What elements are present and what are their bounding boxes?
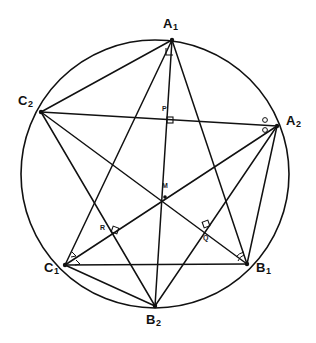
segment-a2-b1 [247, 126, 277, 264]
segment-a1-b2 [155, 40, 172, 306]
vertex-label-a1-letter: A [163, 16, 172, 31]
segment-a1-b1 [172, 40, 247, 264]
point-label-m: M [162, 182, 168, 189]
vertex-label-b2-letter: B [146, 312, 155, 327]
segment-a2-b2 [155, 126, 277, 306]
geometry-figure: A1 A2 B1 B2 C1 C2 P M Q R [0, 0, 316, 343]
vertex-label-c2-sub: 2 [28, 99, 33, 109]
angle-arc-a2-lower [263, 128, 268, 133]
angle-arc-b1-outer [236, 252, 244, 257]
vertex-dot-b2 [153, 304, 157, 308]
vertex-label-b2-sub: 2 [156, 318, 161, 328]
geometry-canvas [0, 0, 316, 343]
vertex-label-b2: B2 [146, 313, 160, 326]
vertex-dot-a2 [275, 124, 279, 128]
vertex-label-a2: A2 [286, 114, 300, 127]
vertex-label-c1-letter: C [44, 260, 53, 275]
vertex-dot-c2 [39, 110, 43, 114]
point-label-r: R [100, 224, 105, 231]
angle-arc-c1-upper [71, 252, 76, 257]
segment-b1-c1 [65, 264, 247, 265]
circumscribed-circle [21, 40, 289, 308]
vertex-label-b1-letter: B [256, 260, 265, 275]
point-label-q: Q [203, 234, 208, 241]
vertex-label-a1-sub: 1 [173, 22, 178, 32]
segment-a2-c1 [65, 126, 277, 265]
vertex-label-c2: C2 [18, 94, 32, 107]
segment-b1-c2 [41, 112, 247, 264]
segment-b2-c2 [41, 112, 155, 306]
segment-a1-c1 [65, 40, 172, 265]
vertex-label-c2-letter: C [18, 93, 27, 108]
vertex-label-b1: B1 [256, 261, 270, 274]
vertex-label-a2-letter: A [286, 113, 295, 128]
right-angle-mark-r [111, 226, 119, 234]
right-angle-mark-group [111, 48, 210, 234]
vertex-label-b1-sub: 1 [266, 266, 271, 276]
vertex-dot-a1 [170, 38, 174, 42]
point-label-p: P [162, 105, 167, 112]
right-angle-mark-q [202, 220, 210, 228]
vertex-dot-c1 [63, 263, 67, 267]
vertex-dot-group [39, 38, 279, 308]
vertex-label-c1-sub: 1 [54, 266, 59, 276]
star-chord-group [41, 40, 277, 306]
angle-arc-a2-upper [263, 118, 268, 123]
segment-a2-c2 [41, 112, 277, 126]
vertex-dot-b1 [245, 262, 249, 266]
vertex-label-a1: A1 [163, 17, 177, 30]
intersection-dot-m [163, 195, 167, 199]
segment-a1-c2 [41, 40, 172, 112]
vertex-label-c1: C1 [44, 261, 58, 274]
vertex-label-a2-sub: 2 [296, 119, 301, 129]
